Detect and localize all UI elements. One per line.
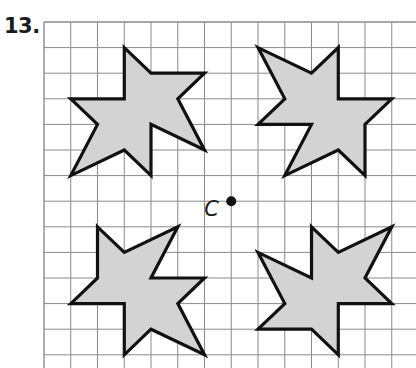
star-bottom-right [258,227,392,355]
star-bottom-left [71,227,205,355]
star-top-left [71,48,205,176]
star-top-right [258,48,392,176]
coordinate-grid-diagram [0,0,416,368]
center-point-label: C [204,197,219,221]
center-of-rotation-point [226,196,236,206]
grid-lines [44,22,416,368]
